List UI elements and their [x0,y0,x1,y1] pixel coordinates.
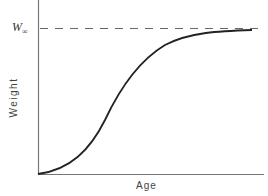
x-axis-label: Age [136,180,157,191]
growth-curve [38,30,252,174]
asymptote-label: W∞ [12,20,28,36]
y-axis-label: Weight [8,73,19,123]
growth-chart [0,0,268,196]
